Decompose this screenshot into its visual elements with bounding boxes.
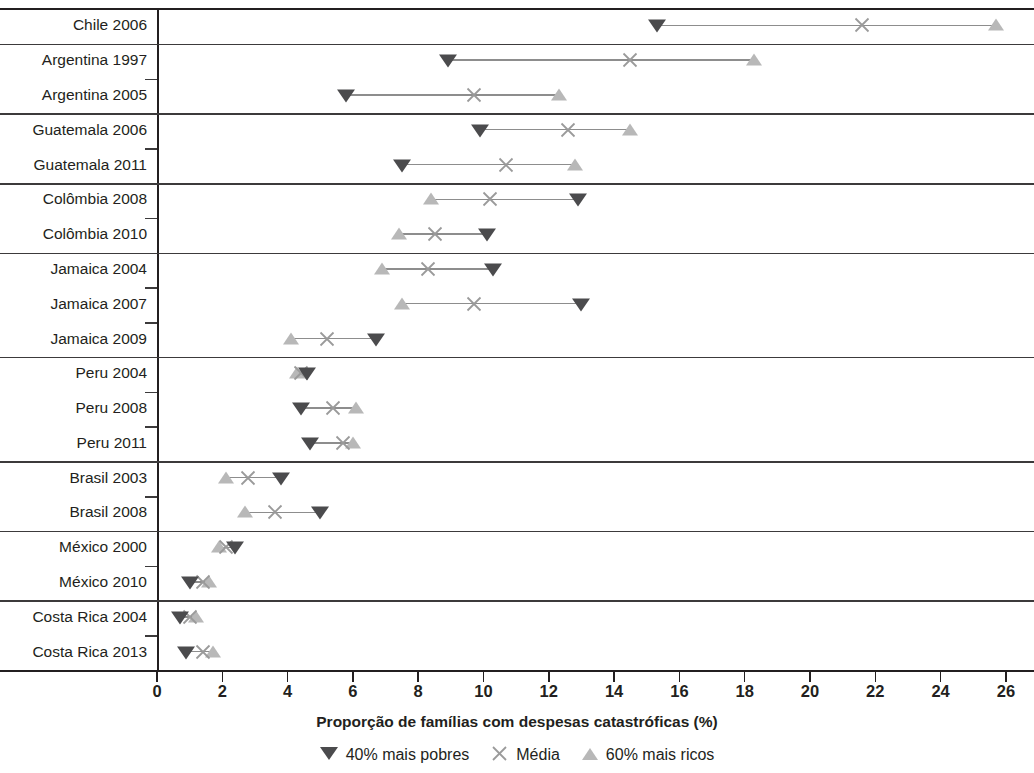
row-tick — [145, 79, 157, 81]
marker-poor-down-triangle — [471, 124, 489, 137]
x-tick-label: 14 — [605, 683, 623, 700]
row-label: Colômbia 2010 — [43, 226, 147, 242]
range-connector — [402, 164, 575, 165]
row-label: Peru 2011 — [77, 435, 147, 451]
x-tick — [940, 672, 942, 682]
marker-poor-down-triangle — [337, 90, 355, 103]
row-label: Brasil 2008 — [69, 504, 147, 520]
x-tick — [417, 672, 419, 682]
range-connector — [480, 129, 630, 130]
marker-rich-up-triangle — [746, 54, 762, 66]
group-separator — [0, 113, 1034, 115]
x-tick — [875, 672, 877, 682]
row-tick — [145, 566, 157, 568]
row-tick — [145, 287, 157, 289]
x-tick-label: 4 — [283, 683, 292, 700]
row-label: Jamaica 2004 — [50, 261, 147, 277]
x-axis-title: Proporção de famílias com despesas catas… — [0, 713, 1034, 731]
row-tick — [145, 392, 157, 394]
group-separator — [0, 600, 1034, 602]
range-connector — [431, 199, 578, 200]
row-label: México 2000 — [59, 539, 147, 555]
row-label: Colômbia 2008 — [43, 191, 147, 207]
group-separator — [0, 531, 1034, 533]
x-tick-label: 20 — [801, 683, 819, 700]
marker-mean-x-cross — [465, 86, 482, 103]
x-tick-label: 24 — [931, 683, 949, 700]
range-connector — [382, 268, 493, 269]
marker-poor-down-triangle — [311, 507, 329, 520]
row-tick — [145, 496, 157, 498]
marker-mean-x-cross — [325, 400, 342, 417]
x-tick — [352, 672, 354, 682]
row-tick — [145, 218, 157, 220]
marker-mean-x-cross — [194, 643, 211, 660]
marker-poor-down-triangle — [272, 472, 290, 485]
marker-poor-down-triangle — [298, 368, 316, 381]
row-tick — [145, 322, 157, 324]
marker-rich-up-triangle — [283, 332, 299, 344]
x-tick — [287, 672, 289, 682]
row-label: Jamaica 2007 — [50, 296, 147, 312]
legend-label-rich: 60% mais ricos — [606, 747, 714, 763]
marker-mean-x-cross — [426, 226, 443, 243]
x-tick — [809, 672, 811, 682]
row-label: Jamaica 2009 — [50, 331, 147, 347]
chart-legend: 40% mais pobres Média 60% mais ricos — [0, 745, 1034, 762]
x-tick-label: 22 — [866, 683, 884, 700]
legend-item-rich: 60% mais ricos — [582, 746, 714, 762]
marker-mean-x-cross — [335, 434, 352, 451]
plot-area — [157, 8, 1034, 671]
x-tick — [548, 672, 550, 682]
x-tick-label: 16 — [670, 683, 688, 700]
marker-rich-up-triangle — [567, 158, 583, 170]
marker-poor-down-triangle — [569, 194, 587, 207]
x-tick-label: 12 — [540, 683, 558, 700]
marker-mean-x-cross — [482, 191, 499, 208]
marker-poor-down-triangle — [367, 333, 385, 346]
marker-mean-x-cross — [560, 121, 577, 138]
x-tick-label: 2 — [218, 683, 227, 700]
marker-poor-down-triangle — [478, 229, 496, 242]
group-separator — [0, 253, 1034, 255]
marker-mean-x-cross — [854, 17, 871, 34]
marker-rich-up-triangle — [237, 506, 253, 518]
group-separator — [0, 461, 1034, 463]
range-connector — [657, 25, 997, 26]
legend-item-poor: 40% mais pobres — [320, 746, 470, 762]
marker-rich-up-triangle — [394, 297, 410, 309]
marker-poor-down-triangle — [171, 611, 189, 624]
x-tick — [156, 672, 158, 682]
row-tick — [145, 426, 157, 428]
row-label: Brasil 2003 — [69, 470, 147, 486]
group-separator — [0, 183, 1034, 185]
marker-poor-down-triangle — [301, 437, 319, 450]
down-triangle-icon — [320, 747, 338, 760]
catastrophic-expenditure-chart: Chile 2006Argentina 1997Argentina 2005Gu… — [0, 0, 1034, 773]
row-label: México 2010 — [59, 574, 147, 590]
row-label: Costa Rica 2013 — [32, 644, 147, 660]
marker-poor-down-triangle — [181, 577, 199, 590]
marker-rich-up-triangle — [348, 401, 364, 413]
marker-poor-down-triangle — [648, 20, 666, 33]
row-labels-column: Chile 2006Argentina 1997Argentina 2005Gu… — [0, 8, 157, 671]
legend-label-mean: Média — [516, 747, 560, 763]
x-cross-icon — [491, 745, 508, 762]
row-label: Guatemala 2006 — [32, 122, 147, 138]
legend-label-poor: 40% mais pobres — [346, 747, 470, 763]
marker-rich-up-triangle — [551, 88, 567, 100]
marker-mean-x-cross — [622, 52, 639, 69]
row-label: Argentina 2005 — [42, 87, 147, 103]
x-tick — [679, 672, 681, 682]
x-tick — [744, 672, 746, 682]
marker-rich-up-triangle — [622, 123, 638, 135]
x-tick-label: 10 — [474, 683, 492, 700]
row-tick — [145, 148, 157, 150]
marker-mean-x-cross — [465, 295, 482, 312]
group-separator — [0, 357, 1034, 359]
x-tick — [613, 672, 615, 682]
marker-poor-down-triangle — [177, 646, 195, 659]
marker-rich-up-triangle — [374, 262, 390, 274]
x-tick-label: 8 — [414, 683, 423, 700]
marker-mean-x-cross — [419, 260, 436, 277]
